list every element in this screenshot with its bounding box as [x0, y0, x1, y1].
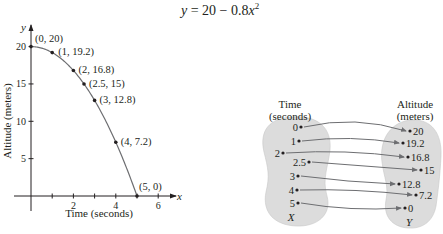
domain-title-line1: Time	[279, 98, 302, 110]
range-point	[419, 168, 422, 171]
y-tick-label: 5	[21, 153, 26, 164]
data-point	[114, 140, 118, 144]
range-value: 19.2	[406, 138, 424, 149]
domain-point	[281, 151, 284, 154]
data-point-label: (2, 16.8)	[78, 64, 114, 76]
data-point	[82, 82, 86, 86]
range-value: 16.8	[411, 152, 429, 163]
range-value: 20	[413, 126, 424, 137]
mapping-diagram: Time (seconds) Altitude (meters) X Y 012…	[263, 98, 441, 228]
data-point	[93, 99, 97, 103]
x-tick-label: 6	[156, 200, 161, 211]
domain-point	[307, 160, 310, 163]
domain-value: 3	[290, 171, 295, 182]
y-tick-label: 15	[16, 78, 26, 89]
range-point	[408, 129, 411, 132]
range-value: 12.8	[402, 179, 420, 190]
range-point	[414, 193, 417, 196]
domain-value: 5	[290, 198, 295, 209]
range-title-line2: (meters)	[397, 110, 434, 123]
range-value: 7.2	[419, 190, 432, 201]
y-tick-label: 20	[16, 41, 26, 52]
domain-set-label: X	[287, 211, 296, 223]
data-point	[72, 69, 76, 73]
y-axis-var-label: y	[20, 21, 26, 33]
data-point	[50, 51, 54, 55]
range-point	[401, 141, 404, 144]
x-axis: x 246 Time (seconds)	[14, 190, 182, 220]
y-axis-title: Altitude (meters)	[1, 83, 14, 159]
range-point	[403, 206, 406, 209]
data-point	[135, 194, 139, 198]
data-point-label: (4, 7.2)	[121, 136, 152, 148]
y-tick-label: 10	[16, 116, 26, 127]
domain-title-line2: (seconds)	[269, 110, 311, 123]
domain-point	[295, 188, 298, 191]
range-point	[397, 182, 400, 185]
domain-set-blob	[263, 117, 330, 226]
domain-value: 0	[293, 122, 298, 133]
data-point-label: (2.5, 15)	[89, 78, 125, 90]
domain-value: 1	[291, 136, 296, 147]
x-axis-var-label: x	[176, 190, 182, 202]
data-point-label: (0, 20)	[35, 33, 63, 45]
data-point	[29, 45, 33, 49]
figure-canvas: x 246 Time (seconds) y 5101520 Altitude …	[0, 0, 443, 234]
domain-point	[297, 139, 300, 142]
altitude-time-chart: x 246 Time (seconds) y 5101520 Altitude …	[1, 21, 182, 220]
y-axis: y 5101520 Altitude (meters)	[1, 21, 34, 211]
range-title-line1: Altitude	[397, 98, 433, 110]
domain-point	[299, 125, 302, 128]
x-axis-title: Time (seconds)	[65, 207, 133, 220]
data-point-label: (1, 19.2)	[58, 46, 94, 58]
domain-value: 4	[289, 185, 295, 196]
data-points: (0, 20)(1, 19.2)(2, 16.8)(2.5, 15)(3, 12…	[29, 33, 162, 198]
data-point-label: (3, 12.8)	[100, 94, 136, 106]
domain-value: 2	[275, 148, 280, 159]
domain-point	[296, 201, 299, 204]
domain-point	[296, 174, 299, 177]
range-point	[406, 155, 409, 158]
data-point-label: (5, 0)	[139, 181, 162, 193]
domain-value: 2.5	[293, 157, 306, 168]
range-value: 15	[424, 165, 435, 176]
range-value: 0	[408, 203, 413, 214]
